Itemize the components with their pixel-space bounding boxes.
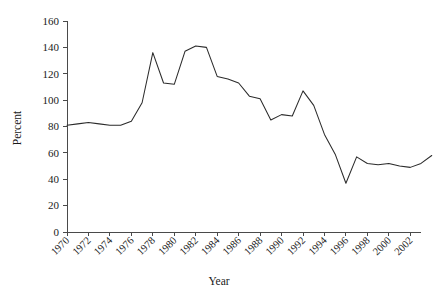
y-tick-label: 160 <box>43 15 60 27</box>
x-tick-label: 1970 <box>49 235 72 258</box>
x-tick-label: 1974 <box>92 234 115 257</box>
data-line-percent <box>67 46 432 183</box>
y-tick-label: 80 <box>48 120 60 132</box>
y-tick-label: 40 <box>48 173 60 185</box>
data-series-group <box>67 46 432 183</box>
y-tick-label: 100 <box>43 94 60 106</box>
x-tick-label: 1978 <box>135 235 158 258</box>
chart-canvas: 020406080100120140160 197019721974197619… <box>0 0 439 297</box>
x-tick-label: 1998 <box>349 235 372 258</box>
x-tick-label: 2000 <box>371 235 394 258</box>
x-tick-label: 1986 <box>220 235 243 258</box>
x-tick-label: 1990 <box>263 235 286 258</box>
y-axis: 020406080100120140160 <box>43 15 68 238</box>
x-tick-label: 1984 <box>199 234 222 257</box>
x-tick-label: 1988 <box>242 235 265 258</box>
x-tick-label: 1994 <box>306 234 329 257</box>
y-axis-title: Percent <box>11 110 23 145</box>
y-tick-label: 0 <box>54 226 60 238</box>
x-tick-label: 1980 <box>156 235 179 258</box>
x-axis: 1970197219741976197819801982198419861988… <box>49 232 421 257</box>
y-tick-label: 60 <box>48 147 60 159</box>
x-tick-label: 1996 <box>328 235 351 258</box>
line-chart: 020406080100120140160 197019721974197619… <box>0 0 439 297</box>
x-axis-title: Year <box>208 275 229 287</box>
x-tick-label: 1972 <box>70 235 93 258</box>
y-tick-label: 120 <box>43 68 60 80</box>
y-tick-label: 20 <box>48 199 60 211</box>
x-tick-label: 1992 <box>285 235 308 258</box>
x-tick-label: 2002 <box>392 235 415 258</box>
x-tick-label: 1976 <box>113 235 136 258</box>
y-tick-label: 140 <box>43 41 60 53</box>
x-tick-label: 1982 <box>177 235 200 258</box>
